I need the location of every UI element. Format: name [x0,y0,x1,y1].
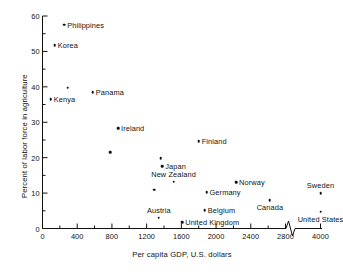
data-point [159,157,162,160]
data-point [319,211,322,214]
data-point [161,165,164,168]
x-tick-label: 800 [106,232,119,241]
data-point-label: Austria [147,206,171,215]
tick-marks [43,16,321,229]
y-tick-label: 60 [31,12,39,21]
data-point-label: Norway [239,178,265,187]
data-point-label: Germany [210,188,241,197]
data-point-label: Kenya [54,95,75,104]
data-point [235,181,238,184]
data-point [205,191,208,194]
data-point-label: New Zealand [151,170,196,179]
y-tick-label: 50 [31,47,39,56]
y-tick-label: 10 [31,189,39,198]
x-tick-label: 2800 [277,232,294,241]
data-point [153,188,156,191]
data-point [203,209,206,212]
data-point [66,87,69,90]
data-point-label: Philippines [67,20,104,29]
data-point [269,199,272,202]
y-tick-label: 20 [31,153,39,162]
data-point-label: Belgium [208,206,235,215]
data-point [181,221,184,224]
data-point-label: United Kingdom [185,218,239,227]
data-point [117,127,120,130]
data-point-label: Korea [58,41,78,50]
x-tick-label: 1200 [138,232,155,241]
x-tick-label: 2400 [242,232,259,241]
x-tick-label: 1600 [173,232,190,241]
data-point-label: Sweden [307,181,334,190]
data-point [53,44,56,47]
data-point [63,24,66,27]
data-point-label: United States [298,215,343,224]
x-tick-label: 400 [71,232,84,241]
data-point [157,217,160,220]
data-point [319,192,322,195]
data-point-label: Panama [96,88,124,97]
y-tick-label: 0 [35,224,39,233]
data-point-label: Canada [257,203,284,212]
data-point [49,98,52,101]
data-point [172,180,175,183]
x-tick-label: 0 [40,232,44,241]
y-tick-label: 30 [31,118,39,127]
x-axis-title: Per capita GDP, U.S. dollars [132,250,231,259]
data-point [109,151,112,154]
x-tick-label: 2000 [208,232,225,241]
x-tick-label: 4000 [312,232,329,241]
y-tick-label: 40 [31,82,39,91]
data-point-label: Ireland [121,124,144,133]
data-point-label: Finland [202,137,227,146]
y-axis-title: Percent of labor force in agriculture [20,74,29,198]
data-point [197,140,200,143]
data-point [92,91,95,94]
